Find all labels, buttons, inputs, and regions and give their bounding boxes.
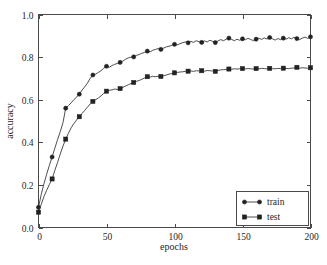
- y-tick-label: 1.0: [22, 11, 34, 21]
- data-point-train: [213, 41, 217, 45]
- data-point-train: [186, 41, 190, 45]
- chart-legend[interactable]: traintest: [237, 192, 309, 226]
- data-point-train: [281, 36, 285, 40]
- data-point-test: [240, 67, 244, 71]
- legend-marker-test: [242, 215, 246, 219]
- legend-label-test: test: [267, 212, 281, 222]
- series-line-train: [39, 37, 311, 207]
- data-point-train: [77, 92, 81, 96]
- data-point-train: [118, 60, 122, 64]
- y-tick-label: 0.6: [22, 96, 34, 106]
- data-point-test: [172, 71, 176, 75]
- accuracy-vs-epochs-chart: 0.00.20.40.60.81.0 050100150200 epochs a…: [0, 0, 327, 265]
- x-tick-label: 200: [304, 232, 319, 242]
- figure-container: 0.00.20.40.60.81.0 050100150200 epochs a…: [0, 0, 327, 265]
- data-point-train: [50, 155, 54, 159]
- data-point-train: [64, 106, 68, 110]
- data-point-train: [200, 40, 204, 44]
- x-tick-label: 100: [168, 232, 183, 242]
- data-point-train: [268, 35, 272, 39]
- data-point-test: [132, 80, 136, 84]
- y-tick-label: 0.8: [22, 53, 34, 63]
- data-point-test: [64, 137, 68, 141]
- data-point-train: [145, 49, 149, 53]
- data-point-test: [186, 69, 190, 73]
- series-train: [36, 35, 312, 210]
- data-point-test: [227, 67, 231, 71]
- data-point-test: [145, 75, 149, 79]
- series-line-test: [39, 67, 311, 212]
- data-point-test: [200, 69, 204, 73]
- data-point-train: [240, 37, 244, 41]
- data-point-test: [50, 177, 54, 181]
- x-tick-label: 50: [103, 232, 113, 242]
- data-point-test: [104, 89, 108, 93]
- x-axis-tick-labels: 050100150200: [37, 232, 319, 242]
- x-tick-label: 150: [236, 232, 251, 242]
- data-point-train: [159, 47, 163, 51]
- data-point-test: [281, 66, 285, 70]
- x-axis-title: epochs: [160, 241, 188, 252]
- data-point-test: [91, 99, 95, 103]
- data-point-test: [254, 67, 258, 71]
- data-point-test: [268, 66, 272, 70]
- y-axis-title: accuracy: [4, 103, 15, 139]
- data-point-test: [36, 210, 40, 214]
- data-point-train: [132, 55, 136, 59]
- data-series-layer: [36, 35, 312, 214]
- y-tick-label: 0.2: [22, 181, 34, 191]
- data-point-test: [308, 66, 312, 70]
- data-point-train: [172, 42, 176, 46]
- legend-marker-train: [242, 200, 246, 204]
- legend-marker-train: [257, 200, 261, 204]
- data-point-test: [159, 74, 163, 78]
- x-tick-label: 0: [37, 232, 42, 242]
- data-point-test: [118, 87, 122, 91]
- data-point-test: [77, 115, 81, 119]
- y-tick-label: 0.0: [22, 224, 34, 234]
- data-point-train: [295, 36, 299, 40]
- data-point-test: [213, 69, 217, 73]
- data-point-train: [308, 35, 312, 39]
- legend-label-train: train: [267, 197, 285, 207]
- data-point-train: [254, 37, 258, 41]
- data-point-train: [91, 73, 95, 77]
- legend-marker-test: [257, 215, 261, 219]
- data-point-train: [104, 64, 108, 68]
- data-point-train: [227, 36, 231, 40]
- data-point-test: [295, 65, 299, 69]
- y-tick-label: 0.4: [22, 138, 34, 148]
- y-axis-tick-labels: 0.00.20.40.60.81.0: [22, 11, 34, 234]
